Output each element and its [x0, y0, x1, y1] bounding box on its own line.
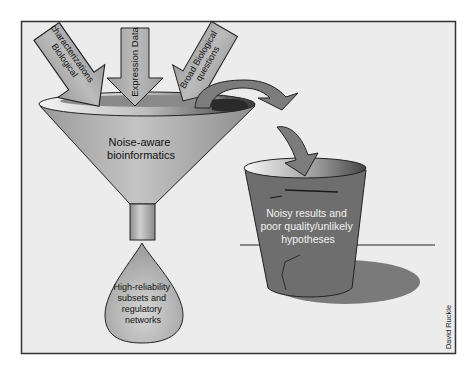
credit-text: David Ruckle: [444, 305, 453, 349]
funnel-label: Noise-aware bioinformatics: [107, 136, 175, 161]
funnel-spout: [130, 204, 155, 240]
diagram-canvas: characterizations Biological Expression …: [0, 0, 475, 376]
label-expression-data: Expression Data: [129, 26, 140, 96]
